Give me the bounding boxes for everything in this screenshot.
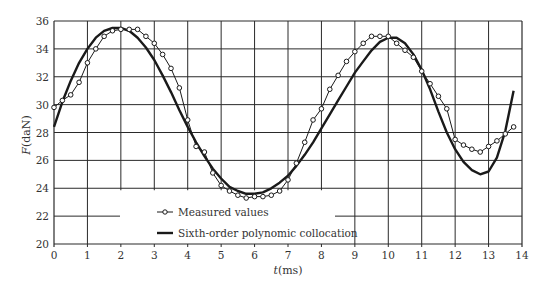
legend-label-measured: Measured values	[178, 206, 269, 218]
data-point-marker	[511, 125, 516, 130]
data-point-marker	[68, 93, 73, 98]
data-point-marker	[411, 55, 416, 60]
data-point-marker	[302, 140, 307, 145]
y-axis-ticks: 202224262830323436	[36, 15, 50, 250]
data-point-marker	[403, 48, 408, 53]
data-point-marker	[294, 161, 299, 166]
data-point-marker	[478, 150, 483, 155]
data-point-marker	[252, 194, 257, 199]
data-point-marker	[470, 147, 475, 152]
y-tick-label: 34	[36, 43, 50, 55]
legend-measured-marker-icon	[163, 210, 167, 214]
data-point-marker	[428, 81, 433, 86]
x-tick-label: 7	[285, 249, 292, 261]
data-point-marker	[486, 144, 491, 149]
x-tick-label: 6	[251, 249, 258, 261]
data-point-marker	[369, 34, 374, 39]
x-tick-label: 10	[382, 249, 395, 261]
data-point-marker	[353, 49, 358, 54]
data-point-marker	[453, 137, 458, 142]
x-tick-label: 3	[151, 249, 158, 261]
data-point-marker	[144, 34, 149, 39]
data-point-marker	[160, 52, 165, 57]
data-point-marker	[344, 59, 349, 64]
data-point-marker	[311, 118, 316, 123]
x-tick-label: 9	[352, 249, 359, 261]
data-point-marker	[336, 73, 341, 78]
x-tick-label: 2	[118, 249, 125, 261]
data-point-marker	[210, 171, 215, 176]
data-point-marker	[110, 28, 115, 33]
data-point-marker	[327, 87, 332, 92]
x-tick-label: 4	[184, 249, 191, 261]
data-point-marker	[319, 107, 324, 112]
data-point-marker	[85, 61, 90, 66]
data-point-marker	[127, 27, 132, 32]
y-tick-label: 20	[36, 238, 49, 250]
data-point-marker	[461, 143, 466, 148]
data-point-marker	[227, 189, 232, 194]
data-point-marker	[102, 34, 107, 39]
y-tick-label: 24	[36, 182, 50, 194]
y-tick-label: 32	[36, 71, 49, 83]
data-point-marker	[378, 34, 383, 39]
data-point-marker	[386, 34, 391, 39]
y-tick-label: 22	[36, 210, 49, 222]
data-point-marker	[202, 150, 207, 155]
data-point-marker	[93, 47, 98, 52]
y-tick-label: 26	[36, 154, 50, 166]
x-tick-label: 1	[84, 249, 91, 261]
data-point-marker	[60, 98, 65, 103]
y-axis-label: F(daN)	[20, 115, 33, 155]
data-point-marker	[219, 183, 224, 188]
x-tick-label: 11	[415, 249, 428, 261]
data-point-marker	[236, 193, 241, 198]
data-point-marker	[495, 139, 500, 144]
data-point-marker	[419, 69, 424, 74]
data-point-marker	[194, 144, 199, 149]
data-point-marker	[503, 132, 508, 137]
data-point-marker	[444, 107, 449, 112]
y-tick-label: 28	[36, 127, 49, 139]
x-axis-label: t(ms)	[273, 264, 302, 277]
data-point-marker	[177, 86, 182, 91]
data-point-marker	[135, 27, 140, 32]
legend: Measured values Sixth-order polynomic co…	[157, 206, 358, 239]
y-tick-label: 36	[36, 15, 50, 27]
legend-item-fit: Sixth-order polynomic collocation	[157, 227, 358, 239]
x-tick-label: 0	[51, 249, 58, 261]
data-point-marker	[185, 118, 190, 123]
data-point-marker	[361, 41, 366, 46]
data-point-marker	[77, 80, 82, 85]
data-point-marker	[52, 105, 57, 110]
series-polynomic-collocation	[54, 28, 514, 194]
x-tick-label: 14	[515, 249, 529, 261]
chart: 01234567891011121314 202224262830323436 …	[0, 0, 543, 291]
series-measured-values	[54, 29, 514, 198]
grid	[54, 21, 522, 247]
data-point-marker	[119, 27, 124, 32]
x-tick-label: 5	[218, 249, 225, 261]
legend-item-measured: Measured values	[157, 206, 269, 218]
x-axis-ticks: 01234567891011121314	[51, 249, 529, 261]
data-point-marker	[277, 189, 282, 194]
x-tick-label: 12	[448, 249, 461, 261]
data-point-marker	[394, 41, 399, 46]
data-point-marker	[152, 41, 157, 46]
y-tick-label: 30	[36, 99, 49, 111]
legend-label-fit: Sixth-order polynomic collocation	[178, 227, 358, 239]
x-tick-label: 13	[482, 249, 495, 261]
data-point-marker	[286, 178, 291, 183]
data-point-marker	[169, 66, 174, 71]
data-point-marker	[261, 194, 266, 199]
data-point-marker	[244, 196, 249, 201]
data-point-marker	[269, 193, 274, 198]
data-point-marker	[436, 94, 441, 99]
x-tick-label: 8	[318, 249, 325, 261]
